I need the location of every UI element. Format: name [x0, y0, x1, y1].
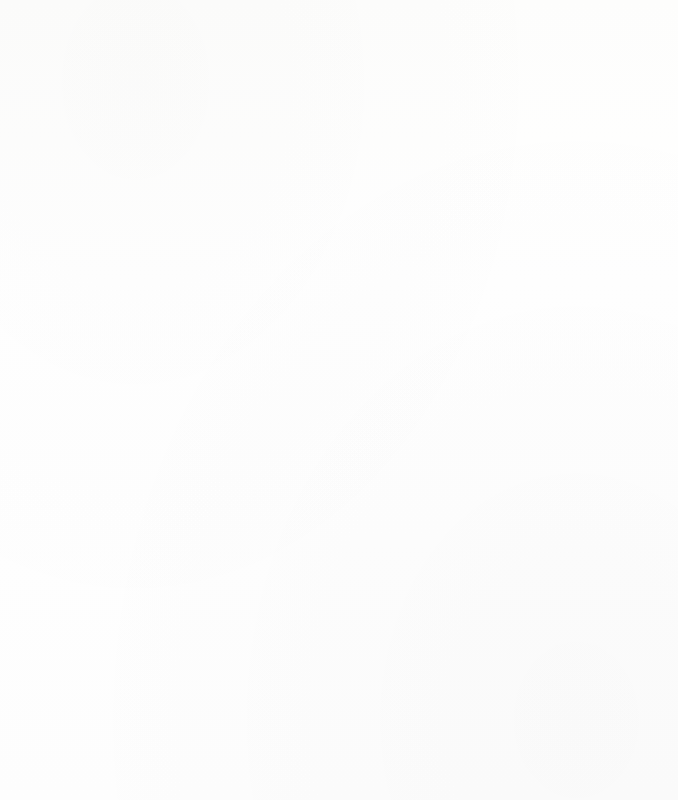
chart2-legend: VANVA-RDefects/reworkOverproductionWaiti… [454, 435, 638, 790]
legend-swatch-grain [454, 548, 479, 571]
legend-swatch-icon [454, 477, 479, 500]
legend-swatch-grain [454, 583, 479, 606]
legend-swatch-grain [454, 619, 479, 642]
legend-item-label: NVA-R [493, 479, 552, 499]
chart2-legend-item[interactable]: Overproduction [454, 542, 638, 578]
page-divider-rule [0, 784, 678, 786]
legend-swatch-icon [454, 619, 479, 642]
legend-swatch-icon [454, 725, 479, 748]
chart2-pie-circle[interactable] [88, 463, 378, 755]
legend-swatch-icon [454, 548, 479, 571]
chart2-legend-item[interactable]: Defects/rework [454, 506, 638, 542]
legend-swatch-icon [454, 654, 479, 677]
chart2-legend-item[interactable]: Transportation [454, 648, 638, 684]
legend-swatch-icon [454, 690, 479, 713]
legend-item-label: Inventory [493, 692, 573, 712]
legend-item-label: Overproduction [493, 550, 626, 570]
chart2-legend-item[interactable]: Motion [454, 719, 638, 755]
legend-swatch-grain [454, 654, 479, 677]
scan-edge-artifact [130, 0, 460, 7]
legend-swatch-grain [454, 725, 479, 748]
legend-swatch-grain [454, 690, 479, 713]
legend-swatch-icon [454, 441, 479, 464]
chart2-legend-item[interactable]: Waiting [454, 577, 638, 613]
chart2-legend-item[interactable]: Inventory [454, 684, 638, 720]
chart2-title: Workflow—DOWNTIME breakdown [0, 385, 470, 408]
legend-item-label: Waiting [493, 585, 557, 605]
legend-swatch-grain [454, 477, 479, 500]
legend-item-label: Extra processing [493, 763, 638, 783]
chart2-legend-item[interactable]: Nonutilized skill [454, 613, 638, 649]
legend-swatch-icon [454, 583, 479, 606]
legend-swatch-icon [454, 512, 479, 535]
legend-swatch-grain [454, 512, 479, 535]
legend-swatch-icon [454, 761, 479, 784]
chart2-legend-item[interactable]: VA [454, 435, 638, 471]
legend-swatch-grain [454, 761, 479, 784]
chart2-callout-extra-processing: 3% [156, 424, 183, 446]
legend-item-label: Motion [493, 727, 552, 747]
legend-item-label: Nonutilized skill [493, 621, 627, 641]
legend-item-label: Transportation [493, 656, 618, 676]
chart2-callout-motion: 74% [58, 718, 98, 741]
legend-item-label: Defects/rework [493, 514, 623, 534]
legend-swatch-grain [454, 441, 479, 464]
chart2-callout-va: 23% [345, 482, 385, 505]
page-bottom-smudge [0, 787, 678, 799]
chart-workflow-downtime-breakdown: Workflow—DOWNTIME breakdown 3% 23% 74% V… [0, 0, 678, 790]
figure-page: Workflow value analysis 23% 77% VANVANVA… [0, 0, 678, 800]
chart2-legend-item[interactable]: NVA-R [454, 471, 638, 507]
legend-item-label: VA [493, 443, 518, 463]
